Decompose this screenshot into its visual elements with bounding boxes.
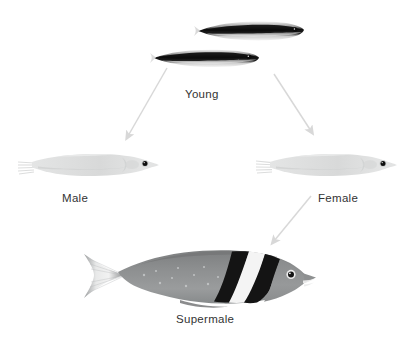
eye-icon xyxy=(288,271,294,277)
young-fish-body xyxy=(150,50,259,67)
fish-male xyxy=(18,142,160,190)
fish-supermale xyxy=(82,242,320,314)
eye-icon xyxy=(381,161,386,166)
label-male: Male xyxy=(62,192,88,204)
fish-young-2 xyxy=(150,42,260,72)
male-fish-body xyxy=(18,154,159,176)
arrow-female-to-supermale xyxy=(274,196,311,241)
caudal-fin xyxy=(18,162,34,174)
caudal-fin xyxy=(256,161,272,173)
arrow-young-to-female xyxy=(274,74,311,131)
label-supermale: Supermale xyxy=(176,313,234,325)
female-fish-body xyxy=(256,154,397,176)
eye-icon xyxy=(293,27,298,32)
young-fish-body xyxy=(194,22,304,41)
supermale-fish-body xyxy=(84,250,316,307)
label-female: Female xyxy=(318,192,358,204)
life-cycle-diagram: Young xyxy=(0,0,419,341)
eye-icon xyxy=(143,161,148,166)
label-young: Young xyxy=(185,88,219,100)
eye-icon xyxy=(247,54,252,59)
arrow-young-to-male xyxy=(128,68,167,136)
caudal-fin xyxy=(84,254,124,298)
fish-female xyxy=(256,142,398,190)
